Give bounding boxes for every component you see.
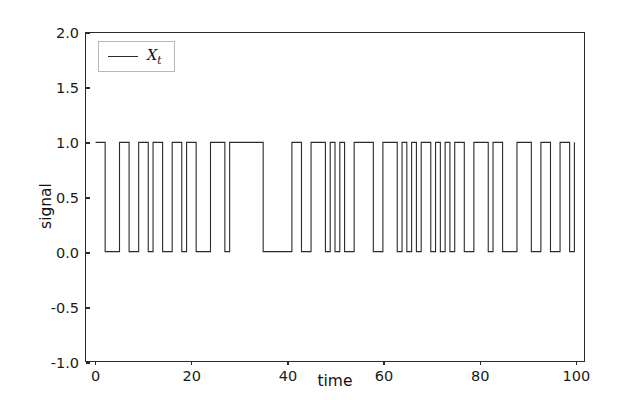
plot-frame: -1.0-0.50.00.51.01.52.0 020406080100 Xt bbox=[85, 32, 585, 362]
plot-area bbox=[86, 33, 584, 361]
x-tick-mark bbox=[191, 361, 192, 365]
y-tick-label: -0.5 bbox=[51, 298, 79, 318]
x-axis-title: time bbox=[85, 372, 585, 390]
y-tick-label: 0.0 bbox=[56, 243, 79, 263]
y-tick-label: 1.0 bbox=[56, 133, 79, 153]
y-tick-mark bbox=[86, 197, 90, 198]
y-tick-mark bbox=[86, 142, 90, 143]
y-tick-label: 1.5 bbox=[56, 78, 79, 98]
legend-line-swatch bbox=[108, 56, 138, 57]
x-tick-mark bbox=[95, 361, 96, 365]
chart-figure: -1.0-0.50.00.51.01.52.0 020406080100 Xt … bbox=[0, 0, 630, 400]
x-tick-mark bbox=[480, 361, 481, 365]
signal-line-svg bbox=[86, 33, 584, 361]
chart-legend: Xt bbox=[98, 41, 175, 72]
y-tick-label: 2.0 bbox=[56, 23, 79, 43]
x-tick-mark bbox=[576, 361, 577, 365]
y-tick-mark bbox=[86, 32, 90, 33]
y-tick-mark bbox=[86, 87, 90, 88]
signal-waveform-path bbox=[96, 142, 575, 251]
y-tick-label: -1.0 bbox=[51, 353, 79, 373]
y-tick-mark bbox=[86, 252, 90, 253]
y-tick-label: 0.5 bbox=[56, 188, 79, 208]
legend-label-xt: Xt bbox=[147, 47, 162, 66]
y-axis-title: signal bbox=[37, 146, 55, 266]
y-tick-mark bbox=[86, 362, 90, 363]
x-tick-mark bbox=[383, 361, 384, 365]
y-tick-mark bbox=[86, 307, 90, 308]
x-tick-mark bbox=[287, 361, 288, 365]
